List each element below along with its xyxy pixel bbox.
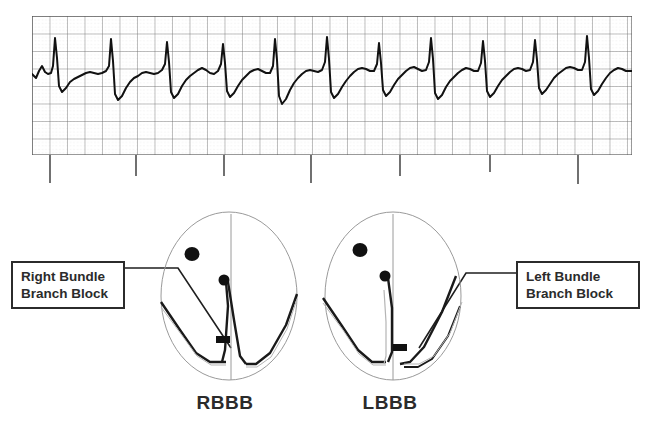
rbbb-heart-diagram	[158, 210, 300, 386]
right-ventricle-wall-line	[246, 299, 297, 367]
right-bundle-branch-path	[323, 298, 386, 362]
sa-node-dot	[353, 243, 368, 257]
lbbb-callout-line-1: Left Bundle	[526, 268, 630, 285]
lbbb-callout-box: Left Bundle Branch Block	[516, 261, 640, 309]
lbbb-caption: LBBB	[320, 392, 460, 414]
rbbb-callout-box: Right Bundle Branch Block	[11, 261, 125, 309]
rbbb-callout-line-2: Branch Block	[21, 285, 115, 302]
sa-node-dot	[185, 247, 200, 261]
left-bundle-branch-path	[246, 294, 297, 364]
av-node-dot	[380, 271, 391, 282]
ecg-rhythm-strip	[32, 16, 632, 155]
left-ventricle-wall-faint-line	[404, 302, 462, 364]
rbbb-caption: RBBB	[155, 392, 295, 414]
septal-fiber-line	[384, 290, 386, 364]
lbbb-heart-diagram	[322, 210, 464, 386]
rbbb-callout-line-1: Right Bundle	[21, 268, 115, 285]
rhythm-tick-marks	[50, 155, 578, 184]
bundle-of-his-block	[216, 336, 230, 343]
av-node-dot	[219, 275, 230, 286]
right-bundle-branch-path	[161, 302, 226, 362]
bundle-of-his-path	[388, 278, 392, 362]
left-bundle-branch-path	[400, 276, 456, 364]
lbbb-callout-line-2: Branch Block	[526, 285, 630, 302]
bundle-of-his-block	[393, 344, 407, 351]
ecg-grid-background	[32, 16, 632, 155]
ecg-bundle-branch-block-figure: RBBB LBBB Right Bundle Branch Block Left…	[0, 0, 648, 424]
bundle-of-his-path	[222, 282, 228, 362]
